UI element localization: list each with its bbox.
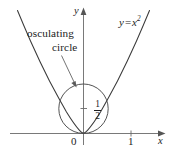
function-exponent: 2 bbox=[137, 15, 141, 23]
origin-label: 0 bbox=[71, 136, 77, 147]
annotation-osculating-line2: circle bbox=[52, 42, 77, 53]
function-equals-symbol: = bbox=[124, 16, 132, 28]
osculating-leader-arrow bbox=[62, 56, 77, 88]
x-tick-label-one: 1 bbox=[128, 136, 134, 147]
x-axis-label: x bbox=[158, 136, 163, 147]
annotation-osculating-line1: osculating bbox=[27, 28, 74, 39]
fraction-denominator: 2 bbox=[94, 112, 101, 122]
y-axis bbox=[81, 8, 88, 146]
osculating-circle-figure: osculating circle y=x2 y x 0 1 1 2 bbox=[0, 0, 173, 158]
figure-canvas bbox=[0, 0, 173, 158]
fraction-numerator: 1 bbox=[94, 100, 101, 110]
y-tick-label-half: 1 2 bbox=[94, 100, 101, 122]
annotation-function-equation: y=x2 bbox=[119, 16, 141, 28]
y-axis-label: y bbox=[74, 6, 79, 17]
